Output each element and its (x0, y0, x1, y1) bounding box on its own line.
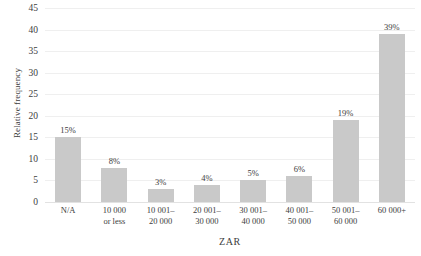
gridline (45, 202, 415, 203)
bar-value-label: 6% (294, 165, 305, 174)
bar[interactable] (148, 189, 174, 202)
x-axis-category-label: N/A (45, 205, 91, 216)
x-axis-category-label: 10 000 or less (91, 205, 137, 227)
x-axis-category-label: 50 001– 60 000 (323, 205, 369, 227)
y-axis-tick-label: 45 (4, 3, 38, 13)
bar-value-label: 5% (247, 169, 258, 178)
x-axis-category-label: 60 000+ (369, 205, 415, 216)
y-axis-tick-label: 15 (4, 132, 38, 142)
y-axis-tick-label: 35 (4, 46, 38, 56)
bar[interactable] (194, 185, 220, 202)
bar[interactable] (101, 168, 127, 202)
bar-slot: 19% (323, 8, 369, 202)
bar-slot: 4% (184, 8, 230, 202)
bar[interactable] (55, 137, 81, 202)
bar-slot: 3% (138, 8, 184, 202)
bar-value-label: 8% (109, 157, 120, 166)
x-axis-category-label: 10 001– 20 000 (138, 205, 184, 227)
y-axis-tick-label: 25 (4, 89, 38, 99)
bar-slot: 5% (230, 8, 276, 202)
y-axis-tick-label: 5 (4, 175, 38, 185)
bar-slot: 39% (369, 8, 415, 202)
bar-value-label: 3% (155, 178, 166, 187)
x-axis-category-label: 40 001– 50 000 (276, 205, 322, 227)
bar-slot: 15% (45, 8, 91, 202)
bar-slot: 8% (91, 8, 137, 202)
x-axis-category-labels: N/A10 000 or less10 001– 20 00020 001– 3… (45, 205, 415, 239)
y-axis-tick-label: 10 (4, 154, 38, 164)
bar[interactable] (333, 120, 359, 202)
bar[interactable] (240, 180, 266, 202)
bar-value-label: 4% (201, 174, 212, 183)
x-axis-title: ZAR (45, 236, 415, 247)
bar-value-label: 39% (384, 23, 400, 32)
bar[interactable] (379, 34, 405, 202)
y-axis-tick-label: 20 (4, 111, 38, 121)
bar-value-label: 15% (60, 126, 76, 135)
bar-chart: Relative frequency 051015202530354045 15… (0, 0, 421, 256)
y-axis-tick-label: 0 (4, 197, 38, 207)
bar[interactable] (286, 176, 312, 202)
bar-slot: 6% (276, 8, 322, 202)
x-axis-category-label: 20 001– 30 000 (184, 205, 230, 227)
y-axis-tick-label: 30 (4, 68, 38, 78)
x-axis-category-label: 30 001– 40 000 (230, 205, 276, 227)
plot-area: 15%8%3%4%5%6%19%39% (45, 8, 415, 202)
bar-value-label: 19% (338, 109, 354, 118)
y-axis-tick-label: 40 (4, 25, 38, 35)
bar-series: 15%8%3%4%5%6%19%39% (45, 8, 415, 202)
